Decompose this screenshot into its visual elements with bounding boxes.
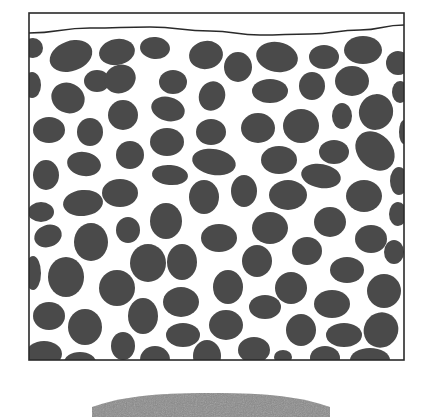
surface-line — [29, 25, 404, 35]
grain-particle — [116, 217, 140, 243]
grain-particle — [201, 224, 237, 252]
grain-particle — [167, 244, 197, 280]
grain-particle — [99, 270, 135, 306]
grain-particle — [319, 140, 349, 164]
grain-particle — [23, 72, 41, 98]
grain-particle — [274, 350, 292, 364]
sediment-mound — [92, 393, 330, 417]
grain-particle — [310, 346, 340, 370]
grain-particle — [390, 167, 408, 195]
grain-particle — [195, 77, 230, 114]
grain-particle — [314, 290, 350, 318]
grain-particle — [46, 77, 89, 119]
grain-particle — [150, 203, 182, 239]
grain-particle — [187, 38, 225, 71]
grain-particle — [116, 141, 144, 169]
grain-particle — [33, 302, 65, 330]
grain-particle — [249, 295, 281, 319]
grain-particle — [299, 72, 325, 100]
grain-particle — [241, 113, 275, 143]
grain-particle — [286, 314, 316, 346]
grain-particle — [332, 103, 352, 129]
grain-particle — [283, 109, 319, 143]
grain-particle — [252, 79, 288, 103]
grain-particle — [346, 180, 382, 212]
grain-particle — [355, 225, 387, 253]
grain-particle — [269, 180, 307, 210]
grain-particle — [33, 160, 59, 190]
grain-particle — [45, 34, 97, 77]
grain-particle — [367, 274, 401, 308]
grain-particle — [128, 298, 158, 334]
grain-particle — [254, 39, 301, 76]
grain-particle — [74, 223, 108, 261]
grain-particle — [354, 89, 398, 134]
grain-particle — [392, 81, 408, 103]
grain-particle — [193, 340, 221, 372]
grain-particle — [163, 287, 199, 317]
grain-particle — [326, 323, 362, 347]
grain-particle — [275, 272, 307, 304]
grain-particle — [386, 51, 410, 75]
grain-particle — [28, 202, 54, 222]
diagram-canvas — [0, 0, 425, 417]
grain-particle — [108, 100, 138, 130]
grain-particle — [252, 212, 288, 244]
grain-particle — [62, 188, 104, 217]
grain-particle — [242, 245, 272, 277]
grain-particle — [209, 310, 243, 340]
grain-particle — [166, 323, 200, 347]
grain-particle — [299, 161, 343, 192]
grain-particle — [238, 337, 270, 363]
grain-particle — [150, 128, 184, 156]
grain-particle — [100, 60, 141, 99]
grain-particle — [314, 207, 346, 237]
grain-particle — [77, 118, 103, 146]
grain-particle — [190, 145, 238, 178]
grain-particle — [97, 36, 137, 68]
grain-particle — [151, 163, 189, 186]
grain-particle — [357, 306, 405, 355]
grain-particle — [68, 309, 102, 345]
grain-particle — [344, 36, 382, 64]
grain-particle — [130, 244, 166, 282]
grain-particle — [213, 270, 243, 304]
grain-particle — [111, 332, 135, 360]
grain-particle — [330, 257, 364, 283]
grain-particle — [159, 70, 187, 94]
grain-particle — [26, 341, 62, 367]
grain-particle — [48, 257, 84, 297]
grain-particle — [102, 179, 138, 207]
grain-particle — [25, 256, 41, 290]
grain-particle — [261, 146, 297, 174]
grain-particle — [335, 66, 369, 96]
grain-particle — [23, 38, 43, 58]
grain-particle — [64, 352, 96, 372]
grain-particle — [384, 240, 404, 264]
grain-particle — [231, 175, 257, 207]
grain-particle — [309, 45, 339, 69]
grain-particle — [148, 93, 187, 125]
grain-particle — [196, 119, 226, 145]
grain-particle — [189, 180, 219, 214]
grain-particle — [139, 36, 171, 61]
grain-particle — [65, 149, 103, 179]
grain-particle — [31, 221, 65, 251]
grain-particle — [224, 52, 252, 82]
grain-particle — [292, 237, 322, 265]
grain-particle — [33, 117, 65, 143]
grain-particles — [23, 34, 410, 374]
